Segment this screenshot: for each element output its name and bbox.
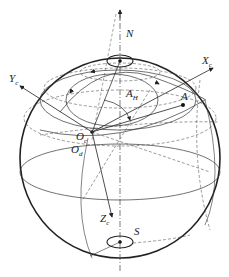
point-a — [181, 103, 185, 107]
sphere-graphic — [0, 0, 229, 277]
label-x-axis: Xc — [202, 55, 212, 69]
label-angle-ah: AH — [126, 88, 138, 102]
label-origin-d: Od — [71, 144, 82, 158]
label-z-axis: Zc — [100, 213, 109, 227]
label-point-a: A — [181, 91, 188, 102]
label-north: N — [126, 28, 133, 39]
label-south: S — [134, 226, 140, 237]
label-y-axis: Yc — [9, 73, 18, 87]
sphere-diagram: N Xc Yc AH A Oc Od Zc S — [0, 0, 229, 277]
